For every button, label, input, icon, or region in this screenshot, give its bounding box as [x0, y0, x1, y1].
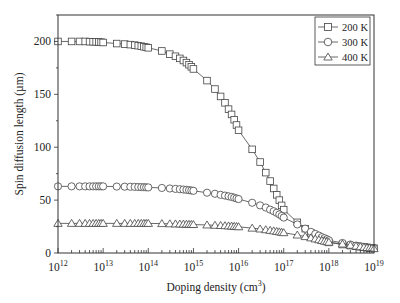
y-axis: 050100150200 [34, 15, 58, 259]
square-marker-icon [145, 44, 152, 51]
chart-svg: 10121013101410151016101710181019 0501001… [0, 0, 400, 303]
triangle-marker-icon [113, 219, 121, 226]
x-tick-label: 1018 [319, 259, 339, 273]
circle-marker-icon [249, 199, 256, 206]
square-marker-icon [204, 77, 211, 84]
square-marker-icon [190, 66, 197, 73]
x-axis-label: Doping density (cm3) [166, 279, 265, 294]
circle-marker-icon [158, 184, 165, 191]
legend: 200 K 300 K 400 K [315, 17, 370, 65]
square-marker-icon [262, 169, 269, 176]
y-tick-label: 100 [34, 141, 52, 153]
circle-marker-icon [113, 183, 120, 190]
circle-marker-icon [294, 221, 301, 228]
square-marker-icon [257, 159, 264, 166]
circle-marker-icon [145, 184, 152, 191]
circle-marker-icon [235, 195, 242, 202]
x-tick-label: 1015 [184, 259, 204, 273]
square-marker-icon [222, 99, 229, 106]
circle-marker-icon [203, 189, 210, 196]
x-tick-label: 1014 [139, 259, 159, 273]
square-marker-icon [217, 93, 224, 100]
legend-label: 300 K [342, 37, 368, 48]
triangle-marker-icon [203, 221, 211, 228]
x-tick-label: 1017 [274, 259, 294, 273]
square-marker-icon [212, 86, 219, 93]
circle-marker-icon [190, 187, 197, 194]
x-tick-label: 1013 [93, 259, 113, 273]
y-axis-label: Spin diffusion length (µm) [13, 72, 26, 195]
square-marker-icon [68, 38, 75, 45]
series-line [58, 41, 374, 248]
legend-label: 400 K [342, 52, 368, 63]
x-tick-label: 1012 [48, 259, 68, 273]
triangle-marker-icon [158, 220, 166, 227]
x-tick-label: 1019 [364, 259, 384, 273]
y-tick-label: 150 [34, 88, 52, 100]
square-marker-icon [270, 185, 277, 192]
square-marker-icon [235, 127, 242, 134]
square-marker-icon [159, 48, 166, 55]
triangle-marker-icon [67, 219, 75, 226]
circle-marker-icon [280, 214, 287, 221]
square-marker-icon [113, 40, 120, 47]
circle-marker-icon [100, 183, 107, 190]
series-layer [54, 38, 378, 252]
x-tick-label: 1016 [229, 259, 249, 273]
square-marker-icon [267, 178, 274, 185]
square-marker-icon [249, 146, 256, 153]
circle-marker-icon [324, 38, 332, 46]
circle-marker-icon [68, 183, 75, 190]
y-tick-label: 50 [40, 194, 52, 206]
square-marker-icon [100, 39, 107, 46]
square-marker-icon [325, 24, 332, 31]
x-axis: 10121013101410151016101710181019 [48, 248, 384, 273]
legend-label: 200 K [342, 22, 368, 33]
y-tick-label: 0 [45, 247, 51, 259]
spin-diffusion-chart: 10121013101410151016101710181019 0501001… [0, 0, 400, 303]
y-tick-label: 200 [34, 35, 52, 47]
